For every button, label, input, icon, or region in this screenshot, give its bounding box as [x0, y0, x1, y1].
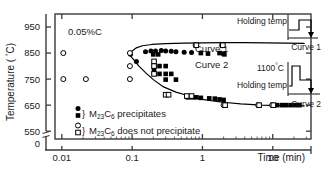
data-point-filled-square — [206, 51, 211, 56]
y-axis-title-group: Temperature ( °C) — [5, 43, 17, 121]
data-point-filled-circle — [182, 50, 187, 55]
data-point-filled-circle — [169, 49, 174, 54]
data-point-filled-square — [174, 77, 179, 82]
data-point-open-square — [257, 103, 262, 108]
legend-desc: precipitates — [115, 108, 166, 119]
data-point-open-square — [221, 43, 226, 48]
data-point-filled-circle — [173, 49, 178, 54]
x-tick-label-0.01: 0.01 — [53, 152, 72, 163]
data-point-open-square — [223, 103, 228, 108]
y-tick-label-850: 850 — [24, 47, 40, 58]
data-point-open-circle — [127, 64, 132, 69]
data-point-open-circle — [61, 51, 66, 56]
data-point-filled-square — [169, 72, 174, 77]
inset-2-peak-unit: C — [278, 63, 284, 73]
curve-2-label: Curve 2 — [195, 59, 228, 70]
data-point-open-circle — [127, 77, 132, 82]
inset-2-peak-temp-label: 1100°C — [257, 62, 284, 74]
legend-marker-open-circle — [76, 123, 81, 128]
data-point-filled-square — [222, 52, 227, 57]
data-point-filled-square — [163, 77, 168, 82]
data-point-filled-circle — [189, 50, 194, 55]
data-point-filled-square — [163, 72, 168, 77]
y-tick-label-0: 0 — [35, 138, 40, 149]
y-tick-label-550: 550 — [24, 126, 40, 137]
data-point-filled-square — [280, 103, 285, 108]
x-tick-label-0.1: 0.1 — [126, 152, 139, 163]
legend-text-1: M23C6 does not precipitate — [89, 125, 200, 137]
data-point-filled-square — [151, 52, 156, 57]
chart-canvas: 0.010.1110Time (min)0550650750850950Temp… — [0, 0, 323, 184]
data-point-open-square — [166, 92, 171, 97]
inset-2-caption: Curve 2 — [291, 99, 321, 109]
x-axis-title: Time (min) — [258, 152, 305, 163]
legend-brace-0: } — [82, 108, 85, 119]
data-point-filled-square — [221, 98, 226, 103]
data-point-filled-square — [199, 51, 204, 56]
data-point-filled-circle — [163, 48, 168, 53]
data-point-filled-square — [199, 96, 204, 101]
legend-m: M — [89, 108, 97, 119]
y-axis-title-unit: C) — [5, 43, 16, 54]
legend-marker-open-square — [76, 130, 81, 135]
y-tick-label-650: 650 — [24, 100, 40, 111]
inset-1-holding-temp-label: Holding temp — [237, 16, 287, 26]
data-point-open-square — [271, 103, 276, 108]
chart-root: 0.010.1110Time (min)0550650750850950Temp… — [0, 0, 323, 184]
inset-2-peak-value: 1100 — [257, 63, 276, 73]
inset-2-holding-temp-label: Holding temp — [237, 80, 287, 90]
legend-marker-filled-square — [76, 113, 81, 118]
data-point-filled-square — [157, 72, 162, 77]
legend-text-0: M23C6 precipitates — [89, 108, 166, 120]
data-point-filled-square — [157, 64, 162, 69]
data-point-filled-circle — [143, 49, 148, 54]
data-point-filled-square — [194, 95, 199, 100]
data-point-filled-square — [217, 51, 222, 56]
ttt-diagram-svg: 0.010.1110Time (min)0550650750850950Temp… — [0, 0, 323, 184]
x-tick-label-1: 1 — [200, 152, 205, 163]
y-tick-label-950: 950 — [24, 21, 40, 32]
inset-1-arrow-icon — [308, 32, 314, 38]
data-point-filled-square — [284, 103, 289, 108]
data-point-open-square — [194, 43, 199, 48]
data-point-open-square — [152, 64, 157, 69]
data-point-open-circle — [83, 77, 88, 82]
inset-1-caption: Curve 1 — [291, 42, 321, 52]
y-axis-title: Temperature ( °C) — [5, 43, 17, 121]
inset-2-arrow-icon — [308, 88, 314, 94]
y-axis-title-prefix: Temperature ( — [5, 56, 16, 121]
data-point-open-circle — [61, 77, 66, 82]
data-point-filled-circle — [134, 59, 139, 64]
data-point-filled-square — [207, 96, 212, 101]
data-point-open-square — [152, 59, 157, 64]
legend-marker-filled-circle — [76, 106, 81, 111]
data-point-open-circle — [127, 51, 132, 56]
composition-annotation: 0.05%C — [68, 26, 102, 37]
data-point-open-square — [185, 94, 190, 99]
data-point-filled-square — [156, 52, 161, 57]
y-tick-label-750: 750 — [24, 74, 40, 85]
inset-1-diagram — [288, 14, 318, 40]
legend-desc: does not precipitate — [115, 125, 201, 136]
legend-brace-1: } — [82, 125, 85, 136]
data-point-filled-square — [213, 96, 218, 101]
inset-2-diagram — [288, 62, 320, 96]
data-point-open-square — [152, 72, 157, 77]
data-point-open-square — [189, 94, 194, 99]
legend-m: M — [89, 125, 97, 136]
data-point-filled-square — [163, 64, 168, 69]
data-point-filled-square — [217, 97, 222, 102]
inset-2-profile-line — [289, 66, 311, 90]
